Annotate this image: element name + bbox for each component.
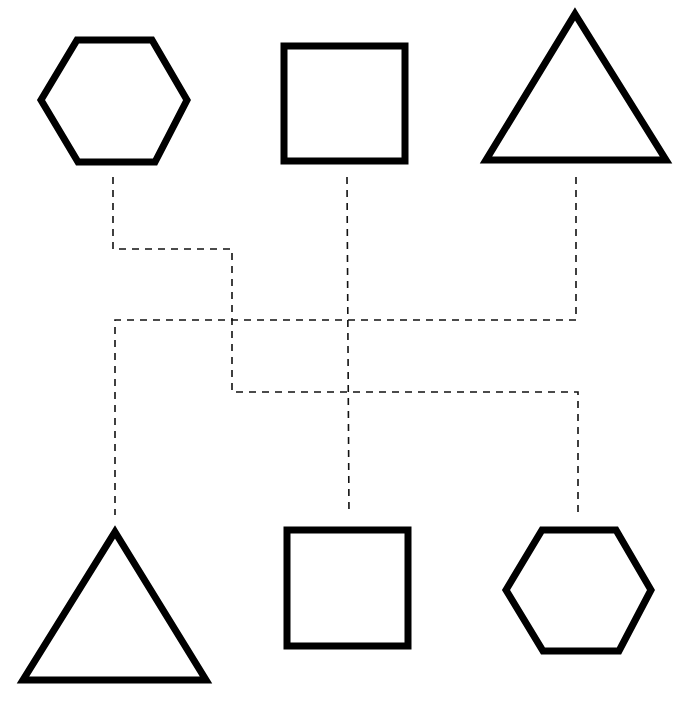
connectors-group	[113, 177, 578, 515]
top-row-shapes	[41, 14, 666, 162]
hexagon-connector	[113, 177, 578, 515]
diagram-canvas	[0, 0, 698, 716]
bottom-row-shapes	[23, 530, 651, 680]
bottom-triangle-shape	[23, 532, 206, 680]
square-connector	[347, 177, 349, 515]
bottom-square-shape	[287, 530, 408, 646]
triangle-connector	[115, 177, 576, 515]
top-triangle-shape	[486, 14, 666, 160]
top-square-shape	[284, 46, 405, 161]
top-hexagon-shape	[41, 40, 187, 162]
bottom-hexagon-shape	[506, 530, 651, 651]
diagram-svg	[0, 0, 698, 716]
